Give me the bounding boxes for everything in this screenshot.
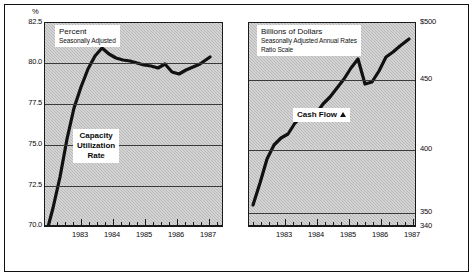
left-tick-minor — [137, 222, 138, 226]
left-tick-minor — [57, 222, 58, 226]
right-ytick-450: 450 — [420, 75, 462, 83]
left-unit-label: % — [32, 8, 39, 16]
left-tick-minor — [105, 222, 106, 226]
right-ytick-400: 400 — [420, 145, 462, 153]
right-tick-minor — [301, 222, 302, 226]
right-tick-major-1985 — [349, 219, 350, 226]
callout-line1: Capacity — [77, 131, 115, 141]
left-tick-minor — [129, 222, 130, 226]
right-ytick-500: $500 — [420, 18, 462, 26]
right-tick-major-1986 — [381, 219, 382, 226]
callout-line3: Rate — [77, 151, 115, 161]
right-tick-minor — [333, 222, 334, 226]
right-ytick-350: 350 — [420, 208, 462, 216]
left-tick-minor — [185, 222, 186, 226]
right-tick-minor — [397, 222, 398, 226]
left-tick-minor — [153, 222, 154, 226]
right-ytick-340: 340 — [420, 222, 462, 230]
left-tick-minor — [217, 222, 218, 226]
left-gridline-72-5 — [45, 186, 222, 187]
cash-flow-callout: Cash Flow — [293, 108, 350, 122]
left-tick-major-1986 — [177, 219, 178, 226]
left-legend-plaque: Percent Seasonally Adjusted — [55, 25, 120, 47]
left-ytick-75-0: 75.0 — [2, 140, 42, 148]
left-tick-major-1987 — [209, 219, 210, 226]
right-tick-minor — [341, 222, 342, 226]
left-tick-minor — [97, 222, 98, 226]
economic-charts-figure: % 82.5 80.0 77.5 75.0 72.5 70.0 Percent … — [0, 0, 475, 278]
right-legend-line1: Billions of Dollars — [261, 27, 357, 36]
right-xlabel-1987: 1987 — [392, 230, 432, 239]
right-tick-minor — [357, 222, 358, 226]
left-legend-line1: Percent — [59, 27, 116, 36]
right-legend-plaque: Billions of Dollars Seasonally Adjusted … — [257, 25, 361, 56]
right-tick-minor — [373, 222, 374, 226]
left-tick-minor — [169, 222, 170, 226]
right-tick-major-1984 — [317, 219, 318, 226]
left-ytick-70-0: 70.0 — [2, 221, 42, 229]
right-gridline-350 — [249, 213, 415, 214]
right-tick-minor — [405, 222, 406, 226]
right-tick-minor — [293, 222, 294, 226]
cash-flow-plot-area: Billions of Dollars Seasonally Adjusted … — [248, 22, 416, 227]
capacity-utilization-panel: % 82.5 80.0 77.5 75.0 72.5 70.0 Percent … — [14, 12, 225, 256]
right-tick-minor — [261, 222, 262, 226]
left-x-axis — [45, 225, 222, 226]
right-tick-minor — [277, 222, 278, 226]
left-gridline-80 — [45, 63, 222, 64]
left-tick-minor — [201, 222, 202, 226]
left-tick-minor — [193, 222, 194, 226]
right-tick-minor — [365, 222, 366, 226]
right-tick-minor — [269, 222, 270, 226]
left-tick-major-1985 — [145, 219, 146, 226]
right-x-axis — [249, 225, 415, 226]
right-tick-major-1987 — [413, 219, 414, 226]
left-gridline-75 — [45, 145, 222, 146]
right-legend-line3: Ratio Scale — [261, 45, 357, 54]
left-tick-major-1984 — [113, 219, 114, 226]
left-ytick-72-5: 72.5 — [2, 181, 42, 189]
triangle-marker-icon — [340, 112, 346, 117]
left-xlabel-1987: 1987 — [188, 230, 228, 239]
capacity-utilization-line — [45, 23, 223, 227]
left-x-axis-labels: 1983 1984 1985 1986 1987 — [14, 230, 225, 242]
cash-flow-callout-label: Cash Flow — [297, 110, 337, 119]
right-gridline-400 — [249, 150, 415, 151]
left-tick-minor — [73, 222, 74, 226]
capacity-utilization-callout: Capacity Utilization Rate — [73, 129, 119, 163]
callout-line2: Utilization — [77, 141, 115, 151]
right-tick-minor — [309, 222, 310, 226]
left-tick-minor — [161, 222, 162, 226]
left-tick-major-1983 — [81, 219, 82, 226]
left-gridline-77-5 — [45, 104, 222, 105]
right-tick-major-1983 — [285, 219, 286, 226]
capacity-utilization-plot-area: Percent Seasonally Adjusted Capacity Uti… — [44, 22, 223, 227]
right-tick-minor — [325, 222, 326, 226]
left-tick-minor — [89, 222, 90, 226]
left-tick-minor — [121, 222, 122, 226]
left-ytick-77-5: 77.5 — [2, 99, 42, 107]
left-ytick-80-0: 80.0 — [2, 58, 42, 66]
cash-flow-panel: $500 450 400 350 340 Billions of Dollars… — [234, 12, 446, 256]
right-legend-line2: Seasonally Adjusted Annual Rates — [261, 36, 357, 45]
left-ytick-82-5: 82.5 — [2, 18, 42, 26]
right-tick-minor — [389, 222, 390, 226]
left-tick-minor — [49, 222, 50, 226]
right-x-axis-labels: 1983 1984 1985 1986 1987 — [234, 230, 446, 242]
right-tick-minor — [253, 222, 254, 226]
left-tick-minor — [65, 222, 66, 226]
left-legend-line2: Seasonally Adjusted — [59, 36, 116, 45]
right-gridline-450 — [249, 80, 415, 81]
